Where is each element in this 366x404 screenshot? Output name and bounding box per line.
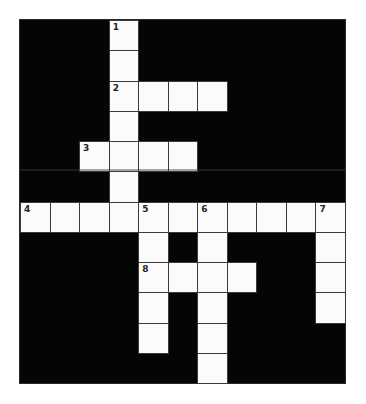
crossword-cell[interactable]: 8 xyxy=(138,262,169,293)
crossword-cell[interactable]: 3 xyxy=(79,141,110,172)
crossword-cell[interactable] xyxy=(168,81,199,112)
crossword-cell[interactable] xyxy=(109,50,140,81)
crossword-cell[interactable] xyxy=(197,292,228,323)
clue-number: 5 xyxy=(142,205,148,214)
crossword-cell[interactable] xyxy=(109,171,140,202)
clue-number: 6 xyxy=(201,205,207,214)
crossword-cell[interactable] xyxy=(109,141,140,172)
crossword-cell[interactable] xyxy=(138,323,169,354)
clue-number: 4 xyxy=(24,205,30,214)
crossword-cell[interactable] xyxy=(315,232,346,263)
crossword-cell[interactable] xyxy=(168,202,199,233)
crossword-cell[interactable] xyxy=(79,202,110,233)
crossword-cell[interactable] xyxy=(109,111,140,142)
crossword-cell[interactable] xyxy=(138,292,169,323)
crossword-cell[interactable]: 5 xyxy=(138,202,169,233)
crossword-cell[interactable] xyxy=(197,262,228,293)
crossword-cell[interactable] xyxy=(315,262,346,293)
crossword-cell[interactable] xyxy=(256,202,287,233)
crossword-cell[interactable] xyxy=(197,323,228,354)
crossword-cell[interactable] xyxy=(227,202,258,233)
crossword-cell[interactable] xyxy=(286,202,317,233)
clue-number: 3 xyxy=(83,144,89,153)
crossword-cell[interactable] xyxy=(197,81,228,112)
crossword-cell[interactable] xyxy=(168,141,199,172)
crossword-cell[interactable] xyxy=(138,232,169,263)
crossword-cell[interactable]: 4 xyxy=(20,202,51,233)
crossword-grid: 12345678 xyxy=(20,20,345,383)
crossword-cell[interactable] xyxy=(197,353,228,384)
clue-number: 8 xyxy=(142,265,148,274)
crossword-cell[interactable] xyxy=(50,202,81,233)
crossword-cell[interactable]: 6 xyxy=(197,202,228,233)
crossword-cell[interactable] xyxy=(109,202,140,233)
crossword-cell[interactable]: 2 xyxy=(109,81,140,112)
clue-number: 7 xyxy=(319,205,325,214)
crossword-cell[interactable] xyxy=(197,232,228,263)
crossword-cell[interactable]: 7 xyxy=(315,202,346,233)
crossword-cell[interactable] xyxy=(138,81,169,112)
clue-number: 1 xyxy=(113,23,119,32)
clue-number: 2 xyxy=(113,84,119,93)
crossword-cell[interactable] xyxy=(315,292,346,323)
crossword-cell[interactable] xyxy=(227,262,258,293)
crossword-cell[interactable] xyxy=(138,141,169,172)
crossword-cell[interactable] xyxy=(168,262,199,293)
crossword-cell[interactable]: 1 xyxy=(109,20,140,51)
